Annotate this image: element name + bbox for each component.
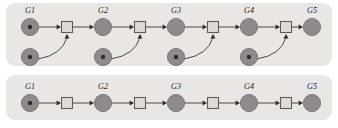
bottom-panel-place-G2[interactable] bbox=[94, 94, 111, 111]
bottom-panel-place-G3[interactable] bbox=[167, 94, 184, 111]
bottom-panel-label-G3: G3 bbox=[171, 82, 181, 91]
top-panel-transition-3[interactable] bbox=[208, 22, 219, 33]
bottom-panel-transition-2[interactable] bbox=[135, 98, 146, 109]
bottom-panel-label-G5: G5 bbox=[307, 82, 317, 91]
top-panel-label-G2: G2 bbox=[98, 6, 108, 15]
top-panel-place-G4[interactable] bbox=[240, 18, 257, 35]
bottom-panel-place-G5[interactable] bbox=[303, 94, 320, 111]
bottom-panel-token-G1 bbox=[28, 101, 32, 105]
top-panel-transition-4[interactable] bbox=[281, 22, 292, 33]
bottom-panel-label-G1: G1 bbox=[25, 82, 35, 91]
bottom-panel-transition-1[interactable] bbox=[62, 98, 73, 109]
top-panel-resource-token-1 bbox=[28, 55, 32, 59]
sequential-petri-net: G1G2G3G4G5 bbox=[6, 75, 332, 120]
petri-net-figure: G1G2G3G4G5G1G2G3G4G5 bbox=[0, 0, 338, 128]
top-panel-resource-token-2 bbox=[101, 55, 105, 59]
top-panel-transition-1[interactable] bbox=[62, 22, 73, 33]
bottom-panel-label-G4: G4 bbox=[244, 82, 254, 91]
bottom-panel-label-G2: G2 bbox=[98, 82, 108, 91]
top-panel-place-G2[interactable] bbox=[94, 18, 111, 35]
petri-net-canvas: G1G2G3G4G5G1G2G3G4G5 bbox=[0, 0, 338, 128]
top-panel-label-G5: G5 bbox=[307, 6, 317, 15]
top-panel-resource-token-3 bbox=[174, 55, 178, 59]
top-panel-label-G4: G4 bbox=[244, 6, 254, 15]
concurrent-petri-net: G1G2G3G4G5 bbox=[6, 3, 332, 66]
top-panel-token-G1 bbox=[28, 25, 32, 29]
top-panel-resource-token-4 bbox=[247, 55, 251, 59]
bottom-panel-transition-3[interactable] bbox=[208, 98, 219, 109]
top-panel-label-G3: G3 bbox=[171, 6, 181, 15]
top-panel-place-G5[interactable] bbox=[303, 18, 320, 35]
top-panel-place-G3[interactable] bbox=[167, 18, 184, 35]
bottom-panel-transition-4[interactable] bbox=[281, 98, 292, 109]
bottom-panel-place-G4[interactable] bbox=[240, 94, 257, 111]
top-panel-transition-2[interactable] bbox=[135, 22, 146, 33]
top-panel-label-G1: G1 bbox=[25, 6, 35, 15]
